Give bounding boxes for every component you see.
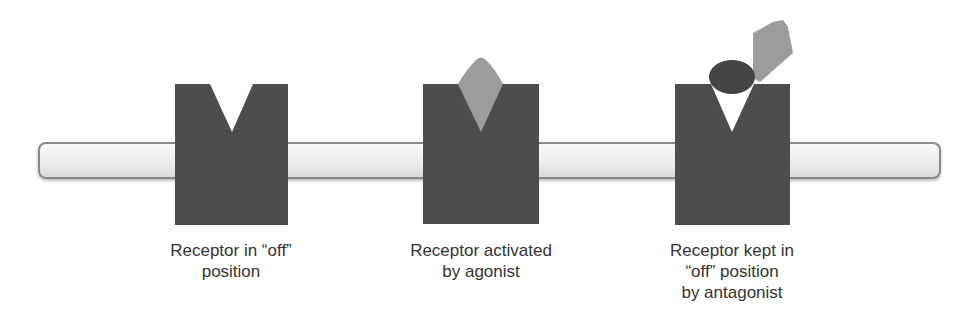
receptor-blocked xyxy=(675,20,793,225)
agonist-shape-displaced xyxy=(753,20,793,82)
receptor-body xyxy=(675,84,790,225)
receptor-off xyxy=(175,84,288,225)
receptor-body xyxy=(175,84,288,225)
label-receptor-blocked: Receptor kept in “off” position by antag… xyxy=(632,240,832,303)
receptor-activated xyxy=(423,58,539,225)
label-receptor-activated: Receptor activated by agonist xyxy=(381,240,581,282)
label-receptor-off: Receptor in “off” position xyxy=(131,240,331,282)
antagonist-shape xyxy=(709,60,755,94)
